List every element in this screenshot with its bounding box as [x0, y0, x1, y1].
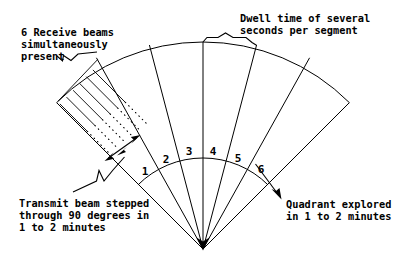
receive-beam-6	[93, 70, 125, 102]
receive-beam-3-dotted	[103, 120, 125, 142]
segment-label-2: 2	[163, 153, 170, 166]
receive-beam-1-dotted	[87, 131, 110, 154]
dwell-time-note: Dwell time of several seconds per segmen…	[240, 12, 370, 36]
receive-beam-5	[86, 77, 117, 108]
quadrant-note: Quadrant explored in 1 to 2 minutes	[286, 198, 391, 222]
receive-beams-note: 6 Receive beams simultaneously present	[21, 26, 114, 62]
diagram-page: 6 Receive beams simultaneously present D…	[0, 0, 407, 268]
radial-line-2	[149, 45, 203, 249]
receive-beam-3	[73, 90, 102, 119]
segment-label-6: 6	[258, 163, 265, 176]
segment-label-4: 4	[210, 145, 217, 158]
receive-beams-line-1: 6 Receive beams	[21, 26, 114, 38]
quadrant-line-1: Quadrant explored	[286, 198, 391, 210]
receive-beams-line-2: simultaneously	[21, 38, 108, 50]
quadrant-line-2: in 1 to 2 minutes	[286, 210, 391, 222]
radial-line-6	[203, 103, 349, 249]
receive-beam-5-dotted	[118, 108, 140, 130]
transmit-beam-line-3: 1 to 2 minutes	[19, 221, 106, 233]
receive-beam-4	[80, 84, 110, 114]
transmit-beam-line-1: Transmit beam stepped	[19, 197, 149, 209]
segment-label-5: 5	[235, 152, 242, 165]
transmit-beam-line-2: through 90 degrees in	[19, 209, 149, 221]
segment-label-1: 1	[142, 165, 149, 178]
receive-beams-line-3: present	[21, 50, 64, 62]
transmit-step-arrow	[105, 135, 141, 161]
dwell-time-line-2: seconds per segment	[240, 24, 358, 36]
receive-beam-1	[60, 104, 87, 131]
radar-fan-diagram: 6 Receive beams simultaneously present D…	[0, 0, 407, 268]
receive-beam-4-dotted	[110, 114, 132, 136]
transmit-beam-note: Transmit beam stepped through 90 degrees…	[19, 197, 149, 233]
dwell-time-line-1: Dwell time of several	[240, 12, 370, 24]
segment-label-3: 3	[186, 145, 193, 158]
receive-beam-2	[67, 97, 95, 125]
receive-beam-6-dotted	[125, 102, 147, 124]
